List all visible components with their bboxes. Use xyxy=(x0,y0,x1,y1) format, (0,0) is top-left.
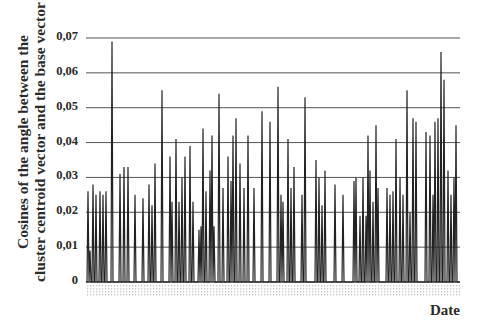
y-axis-title-line-2: cluster centroid vector and the base vec… xyxy=(31,2,48,282)
y-axis-title: Cosines of the angle between the cluster… xyxy=(14,2,54,282)
x-axis-title: Date xyxy=(430,302,460,319)
y-axis-title-line-1: Cosines of the angle between the xyxy=(14,2,31,282)
x-axis-tick-labels xyxy=(87,285,460,296)
data-series-line xyxy=(86,41,460,282)
